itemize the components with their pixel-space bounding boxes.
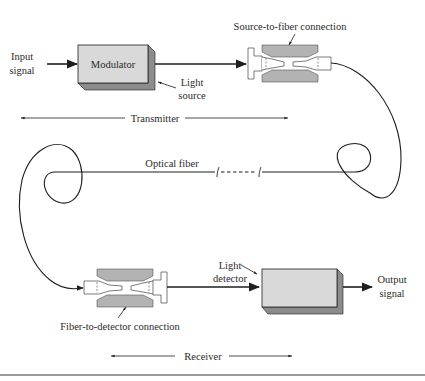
svg-text:Transmitter: Transmitter <box>131 113 180 124</box>
fiber-break <box>217 167 261 177</box>
fiber-optic-diagram: Input signal Modulator Light source Sour… <box>0 0 425 381</box>
output-signal-label: Output signal <box>377 274 406 299</box>
svg-text:signal: signal <box>9 65 34 76</box>
svg-text:Light: Light <box>181 77 204 88</box>
svg-text:detector: detector <box>213 273 247 284</box>
svg-text:Input: Input <box>11 51 33 62</box>
svg-text:Output: Output <box>377 274 406 285</box>
source-to-fiber-label: Source-to-fiber connection <box>234 21 348 32</box>
svg-text:source: source <box>178 90 206 101</box>
light-source-label: Light source <box>158 77 206 101</box>
svg-text:Receiver: Receiver <box>184 351 222 362</box>
detector-block <box>262 269 343 314</box>
modulator-label: Modulator <box>91 59 136 70</box>
modulator-block: Modulator <box>78 45 155 90</box>
fiber-to-detector-connector: Fiber-to-detector connection <box>60 269 180 332</box>
optical-fiber <box>19 63 401 289</box>
svg-text:Light: Light <box>219 260 242 271</box>
fiber-to-detector-label: Fiber-to-detector connection <box>60 321 180 332</box>
light-detector-label: Light detector <box>213 260 257 284</box>
input-signal-label: Input signal <box>9 51 34 76</box>
receiver-span: Receiver <box>111 351 292 362</box>
optical-fiber-label: Optical fiber <box>145 158 199 169</box>
svg-text:signal: signal <box>379 288 404 299</box>
transmitter-span: Transmitter <box>21 113 288 124</box>
source-to-fiber-connector: Source-to-fiber connection <box>234 21 348 82</box>
